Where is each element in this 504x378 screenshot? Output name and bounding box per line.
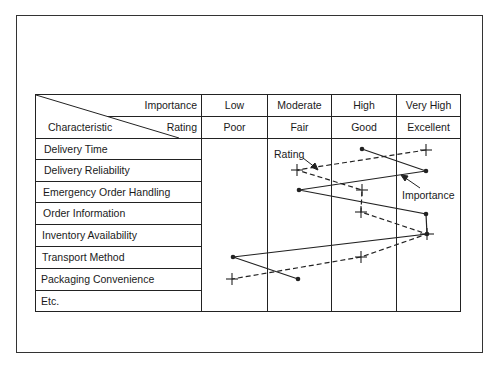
row-label: Order Information: [43, 208, 125, 219]
rating-annotation: Rating: [274, 149, 304, 160]
row-label: Transport Method: [42, 252, 124, 263]
row-label: Emergency Order Handling: [43, 187, 170, 198]
header-rating: Rating: [150, 122, 197, 133]
rating-poor: Poor: [202, 122, 267, 133]
importance-moderate: Moderate: [268, 100, 331, 111]
rating-excellent: Excellent: [397, 122, 460, 133]
rating-series: [226, 144, 434, 285]
importance-low: Low: [202, 100, 267, 111]
importance-very-high: Very High: [397, 100, 460, 111]
header-importance: Importance: [140, 100, 197, 111]
row-label: Delivery Time: [44, 144, 108, 155]
row-label: Inventory Availability: [42, 230, 137, 241]
importance-high: High: [332, 100, 396, 111]
row-label: Delivery Reliability: [44, 165, 130, 176]
rating-fair: Fair: [268, 122, 331, 133]
header-characteristic: Characteristic: [48, 122, 112, 133]
importance-annotation: Importance: [402, 190, 455, 201]
row-label: Etc.: [41, 296, 59, 307]
rating-good: Good: [332, 122, 396, 133]
importance-series: [231, 147, 430, 282]
row-label: Packaging Convenience: [41, 274, 154, 285]
